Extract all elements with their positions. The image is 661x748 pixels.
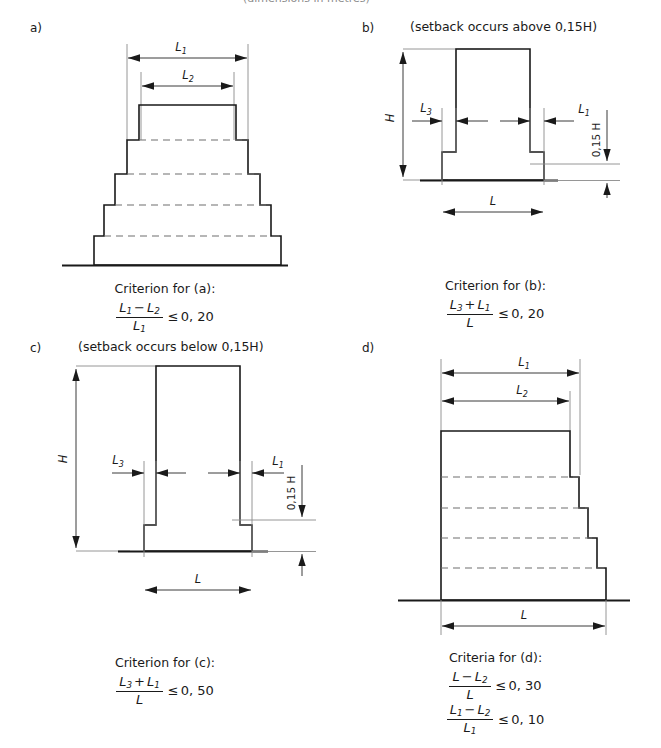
dimension-l-d-label: L <box>521 608 527 622</box>
dimension-l3-c: L3 <box>112 453 186 477</box>
dimension-015h-b-label: 0,15 H <box>590 123 602 158</box>
panel-d-formula-1: L−L2 L ≤ 0, 30 <box>449 670 541 702</box>
dimension-l3-b: L3 <box>412 101 488 125</box>
dimension-l-d: L <box>442 608 605 630</box>
panel-b-criterion: Criterion for (b): L3+L1 L ≤ 0, 20 <box>330 278 661 330</box>
dimension-015h-c: 0,15 H <box>232 465 316 576</box>
dimension-l2-d-label: L2 <box>516 383 528 399</box>
dimension-l1-c-label: L1 <box>272 454 284 470</box>
panel-c-criterion: Criterion for (c): L3+L1 L ≤ 0, 50 <box>0 655 330 707</box>
dimension-l3-b-label: L3 <box>420 101 432 117</box>
panel-d: d) L1 L2 <box>330 335 661 748</box>
dimension-l2-label: L2 <box>182 68 194 84</box>
dimension-l1-b: L1 <box>500 102 590 125</box>
panel-c-formula-1: L3+L1 L ≤ 0, 50 <box>116 675 214 707</box>
building-outline-c <box>144 366 252 551</box>
dimension-l-b: L <box>443 194 543 216</box>
panel-a: a) L1 L2 <box>0 0 330 340</box>
dimension-l-b-label: L <box>490 194 496 208</box>
dimension-015h-c-label: 0,15 H <box>285 476 297 511</box>
dimension-l1-c: L1 <box>208 454 284 477</box>
panel-d-criterion-title: Criteria for (d): <box>330 650 661 666</box>
panel-d-criterion: Criteria for (d): L−L2 L ≤ 0, 30 L1−L2 L… <box>330 650 661 737</box>
panel-d-formula-2: L1−L2 L1 ≤ 0, 10 <box>447 703 545 737</box>
dimension-l2: L2 <box>142 68 233 90</box>
panel-a-criterion-title: Criterion for (a): <box>0 281 330 297</box>
panel-b-formula-1: L3+L1 L ≤ 0, 20 <box>447 298 545 330</box>
dimension-l1-b-label: L1 <box>578 102 590 118</box>
dimension-l-c: L <box>145 572 251 594</box>
panel-a-criterion: Criterion for (a): L1−L2 L1 ≤ 0, 20 <box>0 281 330 335</box>
stepped-building-outline-d <box>441 431 606 600</box>
dimension-h-b-label: H <box>383 113 397 122</box>
dimension-l2-d: L2 <box>442 383 569 405</box>
dimension-l-c-label: L <box>195 572 201 586</box>
dimension-l1-d: L1 <box>442 355 579 377</box>
building-outline-b <box>442 49 544 180</box>
figure-root: (dimensions in metres) a) L1 L2 <box>0 0 661 748</box>
dimension-l1-label: L1 <box>175 40 187 56</box>
dimension-l1: L1 <box>128 40 247 62</box>
dimension-l1-d-label: L1 <box>518 355 530 371</box>
stepped-building-outline-a <box>94 105 281 265</box>
dimension-h-c-label: H <box>56 454 70 463</box>
panel-b-criterion-title: Criterion for (b): <box>330 278 661 294</box>
panel-b: b) (setback occurs above 0,15H) H <box>330 0 661 340</box>
dimension-l3-c-label: L3 <box>112 453 124 469</box>
panel-a-formula-1: L1−L2 L1 ≤ 0, 20 <box>116 301 214 335</box>
dimension-h-b: H <box>383 49 490 180</box>
panel-c: c) (setback occurs below 0,15H) H <box>0 335 330 748</box>
panel-c-criterion-title: Criterion for (c): <box>0 655 330 671</box>
